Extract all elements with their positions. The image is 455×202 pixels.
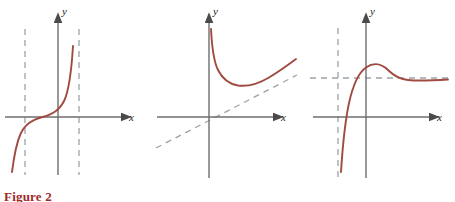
panel-3-y-axis-label: y xyxy=(369,5,375,17)
panel-2-x-axis-label: x xyxy=(280,111,286,123)
panel-3-x-axis-label: x xyxy=(436,111,442,123)
panel-1-x-axis-label: x xyxy=(128,111,134,123)
figure-caption: Figure 2 xyxy=(4,189,52,202)
panel-3: x y xyxy=(310,5,452,178)
panel-3-curve xyxy=(341,64,448,172)
figure-container: x y x y xyxy=(0,0,455,202)
panel-1-y-axis-label: y xyxy=(61,5,67,17)
panel-1: x y xyxy=(5,5,134,175)
panel-2: x y xyxy=(156,5,297,178)
panel-1-curve xyxy=(12,46,73,172)
panel-2-slant-asymptote xyxy=(156,75,297,148)
asymptote-figure-svg: x y x y xyxy=(0,0,455,202)
panel-2-curve xyxy=(211,29,296,86)
panel-2-y-axis-label: y xyxy=(212,5,218,17)
